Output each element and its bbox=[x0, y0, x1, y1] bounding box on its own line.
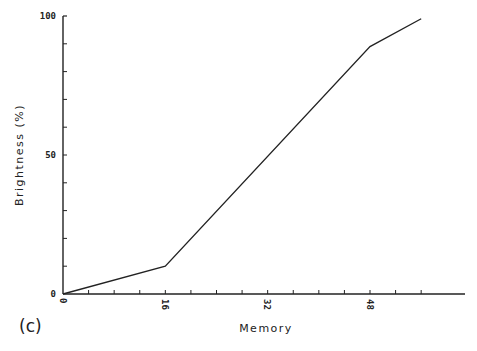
x-axis-title: Memory bbox=[239, 322, 293, 335]
y-tick-label-50: 50 bbox=[45, 150, 56, 160]
x-tick-label-32: 32 bbox=[262, 299, 272, 310]
x-tick-label-48: 48 bbox=[365, 299, 375, 310]
axes bbox=[63, 16, 465, 294]
panel-label: (c) bbox=[19, 316, 42, 336]
y-axis-title: Brightness (%) bbox=[13, 104, 26, 206]
x-tick-label-16: 16 bbox=[160, 299, 170, 310]
y-tick-label-100: 100 bbox=[40, 11, 56, 21]
y-tick-label-0: 0 bbox=[51, 289, 56, 299]
x-tick-label-0: 0 bbox=[58, 298, 68, 303]
brightness-line bbox=[63, 19, 421, 294]
brightness-memory-chart: 100 50 0 0 16 32 48 Brightness (%) Memor… bbox=[0, 0, 477, 351]
